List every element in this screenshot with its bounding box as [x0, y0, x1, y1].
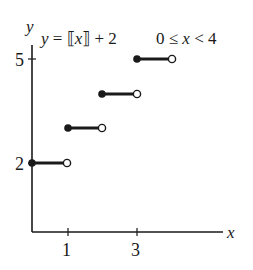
closed-point-3 [133, 55, 141, 63]
open-point-4 [168, 55, 175, 62]
closed-point-0 [28, 159, 36, 167]
x-axis-label: x [226, 223, 235, 242]
closed-point-1 [64, 124, 72, 132]
y-tick-label-5: 5 [15, 50, 24, 70]
open-point-3 [133, 90, 140, 97]
closed-endpoints [28, 55, 141, 167]
domain-label: 0 ≤ x < 4 [156, 29, 217, 48]
x-tick-label-1: 1 [62, 240, 71, 260]
open-point-2 [98, 124, 105, 131]
step-segments [32, 59, 172, 163]
equation-label: y = ⟦x⟧ + 2 [39, 29, 117, 48]
open-point-1 [63, 159, 70, 166]
x-tick-label-3: 3 [131, 240, 140, 260]
closed-point-2 [98, 90, 106, 98]
y-axis-label: y [24, 17, 34, 36]
y-tick-label-2: 2 [15, 154, 24, 174]
open-endpoints [63, 55, 175, 166]
step-function-chart: y x 5 2 1 3 y = ⟦x⟧ + 2 0 ≤ x < 4 [0, 0, 253, 270]
